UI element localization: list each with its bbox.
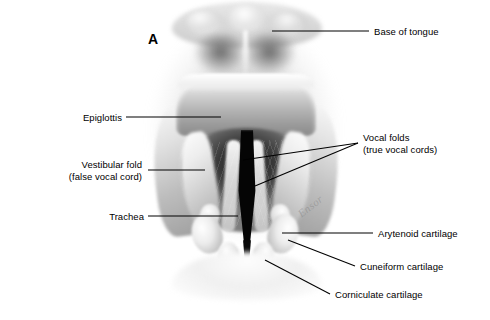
anatomical-figure: Ensor A Epiglottis Vestibular fold (fals… — [0, 0, 490, 320]
label-vocal-folds-line2: (true vocal cords) — [363, 144, 437, 155]
label-corniculate-cartilage: Corniculate cartilage — [335, 289, 423, 301]
tongue-lobule-left — [186, 10, 220, 32]
tongue-lobule-center — [228, 4, 264, 30]
vallecula-left — [194, 34, 242, 74]
label-epiglottis: Epiglottis — [36, 112, 122, 124]
label-base-of-tongue: Base of tongue — [374, 26, 439, 38]
label-vocal-folds: Vocal folds (true vocal cords) — [363, 132, 437, 155]
median-glossoepiglottic-fold — [243, 30, 248, 78]
panel-letter-a: A — [148, 31, 158, 47]
label-vestibular-fold-line1: Vestibular fold — [82, 159, 142, 170]
label-vestibular-fold-line2: (false vocal cord) — [69, 171, 142, 182]
label-vocal-folds-line1: Vocal folds — [363, 132, 410, 143]
label-arytenoid-cartilage: Arytenoid cartilage — [378, 228, 458, 240]
tongue-lobule-right — [268, 12, 302, 34]
label-cuneiform-cartilage: Cuneiform cartilage — [360, 261, 443, 273]
epiglottis-free-margin — [178, 74, 314, 92]
label-vestibular-fold: Vestibular fold (false vocal cord) — [10, 159, 142, 182]
label-trachea: Trachea — [58, 211, 144, 223]
